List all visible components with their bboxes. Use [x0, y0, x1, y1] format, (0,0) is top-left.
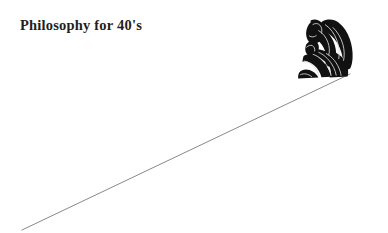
background-rect [0, 0, 388, 233]
page-title: Philosophy for 40's [20, 17, 142, 34]
poster-canvas: Philosophy for 40's [0, 0, 388, 233]
thinker-on-slope-illustration [0, 0, 388, 233]
